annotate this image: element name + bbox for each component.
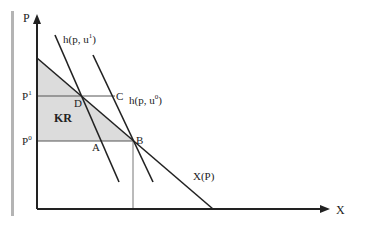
kr-region-label: KR <box>54 111 72 125</box>
p0-label: P0 <box>22 134 32 147</box>
x-axis-arrow-icon <box>320 205 330 213</box>
x-axis-label: X <box>336 203 345 217</box>
hicksian-u0-label: h(p, u0) <box>129 93 162 107</box>
welfare-diagram: P X P1 P0 h(p, u1) h(p, u0) X(P) C D A B… <box>0 0 365 227</box>
y-axis-arrow-icon <box>33 14 41 24</box>
point-b-label: B <box>136 134 143 146</box>
marshallian-demand-label: X(P) <box>193 170 215 183</box>
y-axis-label: P <box>23 11 30 25</box>
point-a-label: A <box>92 141 100 153</box>
point-c-label: C <box>116 90 123 102</box>
hicksian-u1-label: h(p, u1) <box>63 32 96 46</box>
point-d-label: D <box>74 97 82 109</box>
p1-label: P1 <box>22 89 32 102</box>
